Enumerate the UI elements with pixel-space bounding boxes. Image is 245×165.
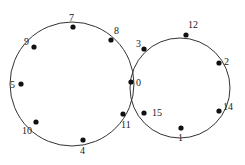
point-label: 1 <box>178 132 183 143</box>
point-3 <box>141 46 146 51</box>
point-7 <box>70 24 75 29</box>
point-0 <box>128 79 133 84</box>
point-12 <box>183 32 188 37</box>
point-9 <box>31 44 36 49</box>
point-label: 4 <box>80 145 85 156</box>
point-15 <box>141 110 146 115</box>
point-label: 5 <box>10 79 15 90</box>
point-label: 7 <box>69 12 74 23</box>
point-label: 15 <box>152 107 162 118</box>
point-label: 12 <box>188 19 198 30</box>
right-circle <box>130 38 230 138</box>
point-1 <box>178 125 183 130</box>
point-label: 11 <box>121 119 131 130</box>
point-label: 8 <box>114 25 119 36</box>
point-label: 2 <box>224 56 229 67</box>
point-label: 9 <box>24 36 29 47</box>
point-14 <box>216 108 221 113</box>
point-label: 14 <box>223 101 233 112</box>
point-5 <box>18 81 23 86</box>
point-label: 10 <box>22 125 32 136</box>
point-10 <box>33 119 38 124</box>
point-11 <box>120 111 125 116</box>
point-label: 0 <box>136 77 141 88</box>
diagram-canvas: 7985104110312214115 <box>0 0 245 165</box>
point-8 <box>108 37 113 42</box>
point-4 <box>80 137 85 142</box>
point-label: 3 <box>136 38 141 49</box>
point-2 <box>216 60 221 65</box>
